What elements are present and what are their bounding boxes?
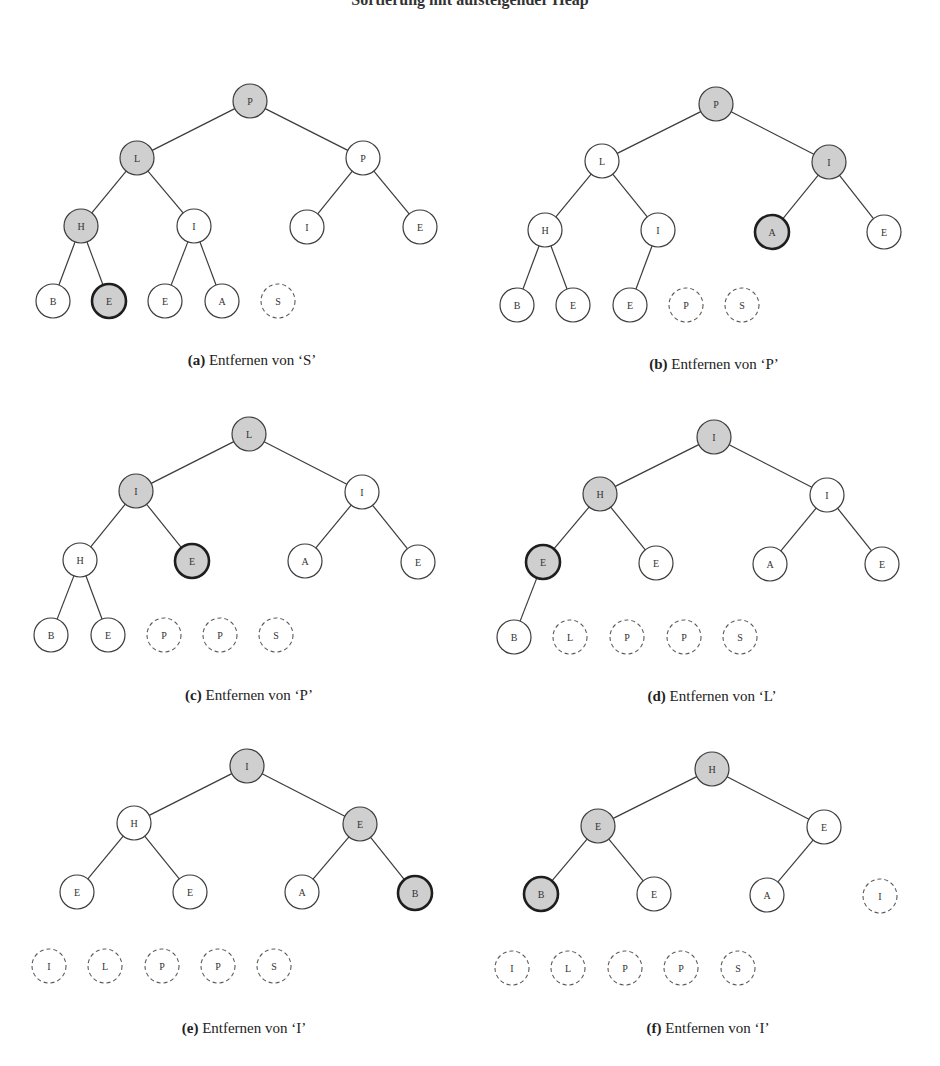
node-label: L [134, 153, 140, 164]
tree-edge [729, 445, 812, 487]
node-label: H [708, 764, 715, 775]
heap-node-e: E [581, 809, 615, 843]
node-label: H [77, 221, 84, 232]
heap-diagram-canvas: PLPHIIEBEEASPLIHIAEBEEPSLIIHEAEBEPPSIHIE… [0, 0, 940, 1066]
tree-edge [265, 109, 348, 151]
node-label: I [305, 222, 308, 233]
node-label: E [357, 819, 363, 830]
heap-node-e: E [867, 215, 901, 249]
node-label: H [76, 555, 83, 566]
node-label: P [159, 961, 165, 972]
node-label: P [713, 99, 719, 110]
node-label: P [215, 961, 221, 972]
node-label: H [596, 489, 603, 500]
tree-edge [617, 112, 701, 154]
removed-node-s: S [723, 620, 757, 654]
node-label: E [162, 296, 168, 307]
node-label: E [651, 889, 657, 900]
node-label: A [301, 556, 309, 567]
caption-e: (e) Entfernen von ‘I’ [182, 1020, 307, 1037]
removed-node-s: S [721, 951, 755, 985]
caption-text: Entfernen von ‘I’ [662, 1020, 770, 1036]
caption-text: Entfernen von ‘S’ [205, 352, 316, 368]
tree-edge [731, 112, 814, 154]
node-label: B [511, 632, 518, 643]
caption-text: Entfernen von ‘P’ [668, 356, 779, 372]
caption-c: (c) Entfernen von ‘P’ [185, 687, 313, 704]
removed-node-p: P [145, 949, 179, 983]
heap-node-h: H [583, 477, 617, 511]
caption-label: (a) [188, 352, 206, 368]
node-label: I [134, 486, 137, 497]
node-label: L [102, 961, 108, 972]
tree-edge [783, 175, 819, 219]
node-label: P [678, 963, 684, 974]
node-label: B [412, 888, 419, 899]
caption-label: (f) [647, 1020, 662, 1036]
removed-node-l: L [551, 951, 585, 985]
tree-edge [86, 576, 102, 619]
tree-edge [374, 171, 409, 214]
node-label: I [360, 487, 363, 498]
tree-edge [59, 242, 75, 285]
heap-node-e: E [613, 288, 647, 322]
tree-edge [840, 175, 874, 218]
panel-d: IHIEEAEBLPPS [497, 420, 899, 654]
node-label: E [595, 821, 601, 832]
tree-edge [523, 246, 539, 289]
caption-label: (e) [182, 1020, 199, 1036]
node-label: S [275, 296, 281, 307]
caption-label: (b) [649, 356, 667, 372]
caption-f: (f) Entfernen von ‘I’ [647, 1020, 770, 1037]
heap-node-l: L [585, 144, 619, 178]
node-label: A [768, 227, 776, 238]
removed-node-i: I [863, 879, 897, 913]
caption-label: (c) [185, 687, 202, 703]
node-label: E [570, 300, 576, 311]
tree-edge [57, 576, 74, 619]
heap-node-a: A [755, 215, 789, 249]
heap-node-b: B [34, 618, 68, 652]
panel-e: IHEEEABILPPS [32, 749, 432, 983]
node-label: E [105, 630, 111, 641]
node-label: I [825, 490, 828, 501]
heap-node-i: I [810, 478, 844, 512]
tree-edge [554, 507, 589, 549]
caption-a: (a) Entfernen von ‘S’ [188, 352, 317, 369]
heap-node-h: H [63, 543, 97, 577]
node-label: I [245, 761, 248, 772]
caption-d: (d) Entfernen von ‘L’ [647, 688, 776, 705]
node-label: H [130, 818, 137, 829]
tree-edge [552, 839, 587, 881]
removed-node-i: I [495, 951, 529, 985]
tree-edge [520, 578, 537, 621]
removed-node-p: P [203, 618, 237, 652]
node-label: P [247, 96, 253, 107]
tree-edge [171, 242, 188, 285]
node-label: E [627, 300, 633, 311]
heap-node-b: B [497, 620, 531, 654]
heap-node-i: I [290, 210, 324, 244]
heap-node-a: A [750, 878, 784, 912]
heap-node-e: E [401, 545, 435, 579]
node-label: I [712, 432, 715, 443]
tree-edge [556, 174, 591, 217]
node-label: E [187, 887, 193, 898]
removed-node-s: S [257, 949, 291, 983]
tree-edge [91, 504, 126, 547]
node-label: I [47, 961, 50, 972]
node-label: L [567, 632, 573, 643]
tree-edge [87, 242, 103, 285]
removed-node-p: P [608, 951, 642, 985]
node-label: B [514, 300, 521, 311]
tree-edge [149, 774, 232, 816]
node-label: E [821, 822, 827, 833]
heap-node-a: A [288, 544, 322, 578]
heap-node-i: I [641, 213, 675, 247]
tree-edge [151, 442, 234, 484]
node-label: A [218, 296, 226, 307]
heap-node-e: E [173, 875, 207, 909]
tree-edge [613, 174, 648, 217]
heap-node-e: E [865, 547, 899, 581]
heap-node-i: I [177, 209, 211, 243]
